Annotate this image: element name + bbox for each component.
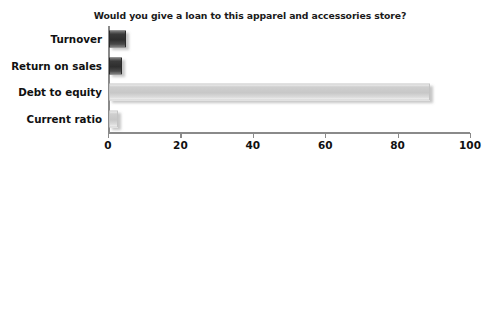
category-label: Current ratio [27, 113, 102, 125]
x-axis-tick [325, 133, 326, 138]
bar [109, 84, 430, 101]
category-label: Turnover [51, 33, 102, 45]
chart-loan-apparel-store: Would you give a loan to this apparel an… [0, 0, 500, 160]
x-axis-tick-label: 60 [318, 139, 333, 151]
bar [109, 31, 126, 48]
x-axis-line-top [108, 132, 470, 134]
x-axis-tick-label: 80 [390, 139, 405, 151]
x-axis-tick-label: 40 [245, 139, 260, 151]
x-axis-tick-label: 20 [173, 139, 188, 151]
category-label: Debt to equity [18, 86, 102, 98]
plot-area-top: 020406080100TurnoverReturn on salesDebt … [108, 26, 470, 132]
bar [109, 110, 118, 127]
bar [109, 57, 122, 74]
category-label: Return on sales [11, 60, 102, 72]
x-axis-tick [398, 133, 399, 138]
x-axis-tick [470, 133, 471, 138]
x-axis-tick [180, 133, 181, 138]
x-axis-tick [253, 133, 254, 138]
x-axis-tick-label: 0 [104, 139, 111, 151]
chart-title-top-line-1: Would you give a loan to this apparel an… [0, 10, 500, 23]
chart-title-top: Would you give a loan to this apparel an… [0, 10, 500, 23]
x-axis-tick [108, 133, 109, 138]
x-axis-tick-label: 100 [459, 139, 481, 151]
chart-invest-tractor-company: Would you want to invest your own money … [0, 160, 500, 318]
